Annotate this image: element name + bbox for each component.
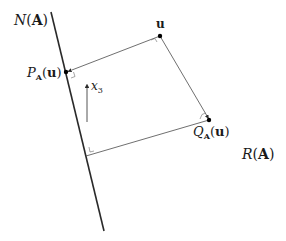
- label-x3-sub: 3: [98, 86, 103, 95]
- diagram-svg: [0, 0, 286, 241]
- label-p-sub: A: [36, 72, 42, 82]
- label-range: R(A): [242, 147, 274, 161]
- label-x3: x3: [91, 80, 103, 95]
- label-nullspace: N(A): [14, 13, 48, 27]
- label-p: PA(u): [27, 66, 62, 81]
- label-x3-base: x: [91, 79, 98, 93]
- point-u: [158, 34, 162, 38]
- label-q-sub: A: [204, 131, 210, 141]
- label-p-base: P: [27, 65, 36, 80]
- label-u-text: u: [156, 17, 165, 31]
- right-angle-p: [71, 72, 75, 78]
- edge-corner-to-q: [86, 120, 209, 156]
- nullspace-line: [51, 12, 104, 231]
- label-p-arg: u: [47, 65, 56, 80]
- label-q-base: Q: [193, 124, 204, 139]
- label-q: QA(u): [193, 125, 230, 140]
- point-q: [207, 118, 211, 122]
- label-q-arg: u: [215, 124, 224, 139]
- label-nullspace-prefix: N: [14, 12, 26, 28]
- point-p: [64, 70, 68, 74]
- edge-u-to-q: [160, 36, 209, 119]
- edge-u-to-p: [68, 36, 160, 72]
- label-range-prefix: R: [242, 146, 253, 162]
- label-nullspace-arg: A: [32, 12, 43, 28]
- right-angle-q: [200, 113, 206, 119]
- diagram-canvas: N(A) u PA(u) x3 QA(u) R(A): [0, 0, 286, 241]
- right-angle-corner: [89, 147, 94, 152]
- label-range-arg: A: [258, 146, 269, 162]
- label-u: u: [156, 18, 165, 30]
